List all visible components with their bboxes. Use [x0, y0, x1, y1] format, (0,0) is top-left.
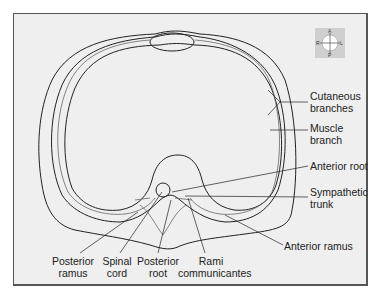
compass-posterior: P [328, 53, 331, 58]
compass-right: R [316, 41, 320, 46]
leader-rami [188, 198, 205, 253]
label-muscle-branch: Muscle branch [310, 122, 343, 146]
label-posterior-root: Posterior root [136, 255, 180, 279]
label-spinal-cord: Spinal cord [100, 255, 134, 279]
spinous-process [140, 205, 186, 235]
label-anterior-root: Anterior root [310, 160, 368, 172]
compass-left: L [340, 41, 343, 46]
label-posterior-ramus: Posterior ramus [50, 255, 96, 279]
leader-spinal-cord [120, 192, 162, 253]
sternum [150, 33, 194, 51]
compass-anterior: A [328, 29, 331, 34]
leader-sympathetic [185, 196, 308, 197]
leader-anterior-ramus [225, 215, 283, 245]
label-sympathetic-trunk: Sympathetic trunk [310, 186, 368, 210]
label-anterior-ramus: Anterior ramus [284, 240, 353, 252]
leader-posterior-root [158, 200, 171, 253]
pleural-cavity [65, 44, 282, 211]
leader-anterior-root [172, 166, 308, 192]
intercostal-nerve-right [190, 40, 280, 214]
label-cutaneous-branches: Cutaneous branches [310, 90, 361, 114]
label-rami-communicantes: Rami communicantes [178, 255, 244, 279]
vertebral-body [156, 183, 170, 197]
orientation-compass: A P R L [315, 28, 345, 58]
